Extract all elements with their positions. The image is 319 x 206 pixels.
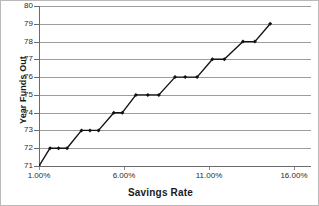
y-axis-tick-label: 77	[13, 54, 33, 63]
data-series	[39, 6, 311, 166]
x-axis-tick-mark	[124, 167, 125, 170]
y-axis-tick-label: 73	[13, 125, 33, 134]
x-axis-tick-mark	[294, 167, 295, 170]
x-axis-tick-mark	[209, 167, 210, 170]
x-axis-tick-label: 16.00%	[272, 171, 316, 180]
chart-container: Year Funds Out Savings Rate 807978777675…	[0, 0, 319, 206]
data-point-marker	[146, 93, 150, 97]
x-axis-tick-label: 1.00%	[17, 171, 61, 180]
series-line	[39, 24, 270, 166]
y-axis-tick-label: 72	[13, 143, 33, 152]
plot-area	[39, 6, 311, 166]
y-axis-tick-label: 76	[13, 72, 33, 81]
y-axis-tick-label: 75	[13, 90, 33, 99]
x-axis-tick-label: 6.00%	[102, 171, 146, 180]
data-point-marker	[88, 128, 92, 132]
x-axis-tick-mark	[39, 167, 40, 170]
x-axis-line	[39, 166, 311, 167]
y-axis-tick-label: 80	[13, 1, 33, 10]
y-axis-tick-label: 78	[13, 37, 33, 46]
data-point-marker	[57, 146, 61, 150]
y-axis-tick-label: 71	[13, 161, 33, 170]
data-point-marker	[183, 75, 187, 79]
x-axis-tick-label: 11.00%	[187, 171, 231, 180]
y-axis-tick-label: 74	[13, 108, 33, 117]
x-axis-title: Savings Rate	[1, 187, 319, 198]
y-axis-tick-label: 79	[13, 19, 33, 28]
series-markers	[39, 22, 272, 166]
